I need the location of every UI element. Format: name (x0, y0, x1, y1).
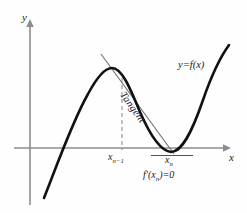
x-current-subscript: n (169, 160, 172, 167)
derivative-condition-label: f′(xn)=0 (143, 170, 174, 183)
x-previous-tick-label: xn−1 (108, 152, 124, 165)
y-axis-label: y (22, 12, 27, 23)
curve-label: y=f(x) (178, 60, 204, 71)
x-previous-subscript: n−1 (112, 157, 123, 164)
y-axis-arrowhead (26, 19, 34, 27)
derivative-suffix: )=0 (159, 169, 174, 180)
figure-canvas (0, 0, 247, 213)
x-current-tick-label: xn (165, 155, 173, 168)
x-axis-label: x (229, 152, 234, 163)
newtons-method-figure: y x y=f(x) Tangent xn−1 xn f′(xn)=0 (0, 0, 247, 213)
y-axis (26, 19, 34, 205)
